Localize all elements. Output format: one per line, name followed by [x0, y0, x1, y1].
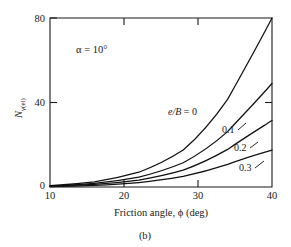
x-axis-title-suffix: (deg) — [183, 207, 208, 219]
leader-0point2 — [250, 142, 258, 148]
x-axis-ticks — [124, 18, 198, 187]
y-ticklabel-40: 40 — [35, 97, 46, 108]
figure-caption: (b) — [139, 230, 152, 242]
curve-label-eB-0point2: 0.2 — [234, 142, 247, 153]
x-ticklabel-20: 20 — [119, 190, 130, 201]
curve-label-eB-0-italic: e/B — [168, 106, 181, 117]
x-axis-title: Friction angle, ϕ (deg) — [114, 207, 209, 219]
svg-text:Nγ(ei): Nγ(ei) — [13, 98, 27, 119]
y-ticklabel-80: 80 — [35, 13, 46, 24]
leader-0point1 — [238, 123, 246, 130]
alpha-annotation: α = 10° — [76, 44, 107, 55]
chart-canvas: 80 40 0 10 20 30 40 Nγ(ei) Friction angl… — [0, 0, 291, 247]
x-axis-title-prefix: Friction angle, — [114, 207, 178, 218]
curve-label-eB-0: e/B = 0 — [168, 106, 197, 117]
y-axis-title-sub: γ(ei) — [19, 98, 27, 112]
curve-label-eB-0-rest: = 0 — [181, 106, 197, 117]
curve-label-eB-0point3: 0.3 — [239, 162, 252, 173]
curve-label-eB-0point1: 0.1 — [222, 124, 235, 135]
x-ticklabel-30: 30 — [193, 190, 204, 201]
curve-eB-0point2 — [50, 120, 272, 186]
y-axis-ticks — [50, 18, 272, 103]
y-axis-title: Nγ(ei) — [13, 98, 27, 119]
x-ticklabel-40: 40 — [267, 190, 278, 201]
figure-container: 80 40 0 10 20 30 40 Nγ(ei) Friction angl… — [0, 0, 291, 247]
x-ticklabel-10: 10 — [45, 190, 56, 201]
leader-0point3 — [255, 161, 264, 168]
